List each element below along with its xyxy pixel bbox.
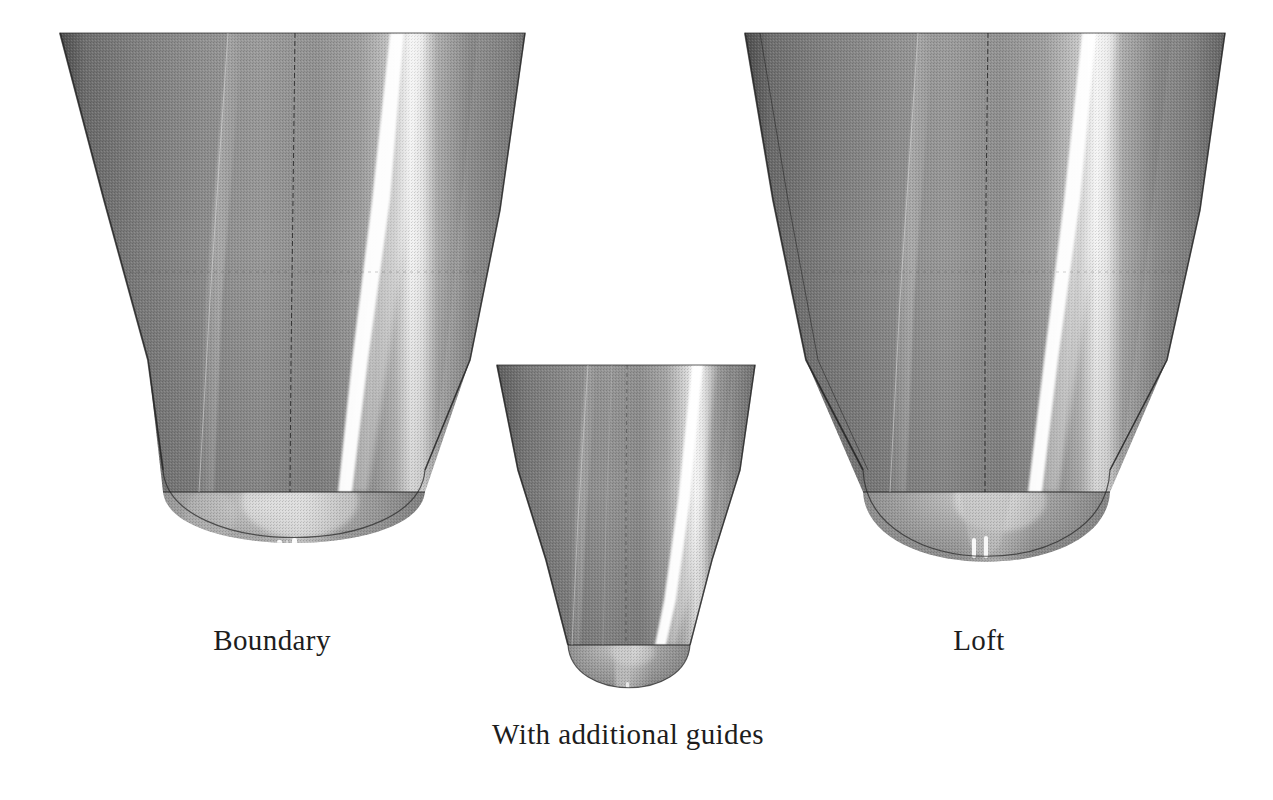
label-loft: Loft — [953, 624, 1005, 657]
label-boundary: Boundary — [213, 624, 331, 657]
loft-specular-dot-2 — [984, 536, 988, 558]
cad-surface-figure — [0, 0, 1273, 800]
loft-specular-dot-1 — [972, 538, 976, 558]
label-with-additional-guides: With additional guides — [492, 718, 764, 751]
